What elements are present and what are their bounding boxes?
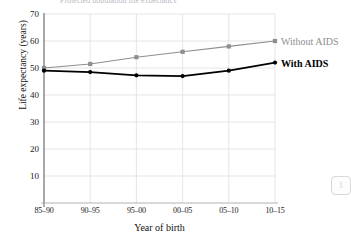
x-axis-tick-label: 10–15 bbox=[245, 206, 305, 215]
series-label-without-aids: Without AIDS bbox=[281, 36, 339, 47]
y-axis-tick-label: 70 bbox=[13, 9, 39, 19]
y-axis-tick-label: 20 bbox=[13, 144, 39, 154]
y-axis-tick-label: 30 bbox=[13, 117, 39, 127]
corner-badge[interactable]: 1 bbox=[331, 176, 351, 195]
corner-badge-label: 1 bbox=[332, 177, 350, 194]
y-axis-tick-label: 60 bbox=[13, 36, 39, 46]
series-label-with-aids: With AIDS bbox=[281, 57, 328, 68]
y-axis-tick-label: 10 bbox=[13, 171, 39, 181]
y-axis-tick-label: 50 bbox=[13, 63, 39, 73]
y-axis-tick-label: 40 bbox=[13, 90, 39, 100]
